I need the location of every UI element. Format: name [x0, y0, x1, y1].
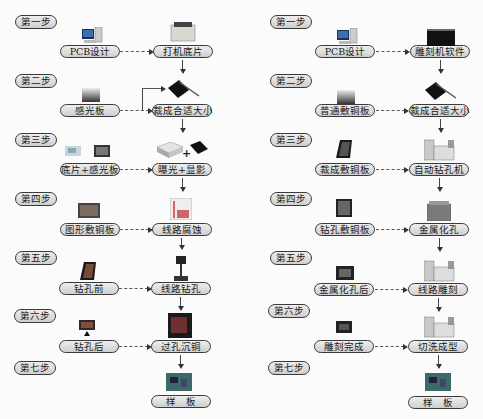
left-step-4: 第四步 [15, 192, 57, 206]
sample-board-icon [166, 373, 192, 391]
right-input-drilled-copper-board: 钻孔敷铜板 [315, 223, 375, 236]
film-board-icon [65, 146, 81, 156]
right-step-2: 第二步 [270, 74, 312, 88]
left-arrow-4 [120, 229, 149, 230]
left-input-photosensitive-board: 感光板 [60, 104, 120, 117]
patterned-board-icon [78, 203, 100, 218]
left-process-print-film: 打机底片 [153, 45, 213, 58]
right-process-cut-shape: 切洗成型 [408, 340, 468, 353]
right-vflow-1 [440, 60, 441, 70]
right-arrow-2 [376, 110, 405, 111]
right-process-cut-to-size: 裁成合适大小 [409, 104, 469, 117]
left-vflow-2 [182, 119, 183, 129]
cutter-icon [422, 80, 458, 104]
left-arrow-5 [119, 288, 148, 289]
left-step-7: 第七步 [14, 361, 56, 375]
right-vflow-6 [438, 355, 439, 365]
sample-board-icon [425, 373, 451, 391]
left-process-plating: 过孔沉铜 [151, 340, 211, 353]
plating-machine-icon [167, 313, 193, 338]
photosensitive-board-icon [94, 145, 110, 157]
left-process-cut-to-size: 裁成合适大小 [152, 104, 212, 117]
right-process-auto-drill: 自动钻孔机 [409, 163, 469, 176]
right-arrow-6 [375, 346, 404, 347]
engraving-machine-icon [424, 315, 456, 339]
developer-tray-icon [190, 141, 208, 155]
left-step-6: 第六步 [14, 309, 56, 323]
left-branch-arrow [142, 88, 162, 89]
right-vflow-2 [440, 119, 441, 129]
printer-icon [170, 22, 196, 42]
left-input-after-drill: 钻孔后 [59, 340, 119, 353]
right-process-hole-plating: 金属化孔 [409, 223, 469, 236]
left-result-sample: 样 板 [151, 395, 211, 408]
left-input-pcb-design: PCB设计 [60, 45, 120, 58]
left-step-5: 第五步 [15, 251, 57, 265]
right-result-sample: 样 板 [408, 396, 468, 409]
right-input-plain-copper-board: 普通敷铜板 [315, 104, 375, 117]
left-vflow-6 [180, 355, 181, 365]
right-step-1: 第一步 [270, 15, 312, 29]
left-branch-line [142, 88, 143, 110]
left-process-drilling: 线路钻孔 [151, 282, 211, 295]
computer-icon [82, 27, 104, 45]
right-input-engraving-done: 雕刻完成 [314, 340, 374, 353]
right-vflow-4 [439, 238, 440, 248]
left-input-film-plus-board: 底片+感光板 [60, 163, 120, 176]
copper-board-icon [337, 90, 355, 104]
left-step-3: 第三步 [15, 133, 57, 147]
right-vflow-5 [438, 298, 439, 308]
right-step-6: 第六步 [268, 304, 310, 318]
cut-board-icon [336, 140, 352, 158]
engraving-machine-icon [424, 259, 456, 283]
left-step-2: 第二步 [15, 74, 57, 88]
left-input-before-drill: 钻孔前 [59, 282, 119, 295]
left-input-patterned-board: 图形敷铜板 [60, 223, 120, 236]
computer-icon [337, 28, 359, 46]
right-input-pcb-design: PCB设计 [315, 45, 375, 58]
left-process-etching: 线路腐蚀 [152, 223, 212, 236]
left-vflow-3 [182, 178, 183, 188]
right-arrow-3 [376, 169, 405, 170]
left-arrow-3 [120, 169, 149, 170]
left-arrow-6 [119, 346, 148, 347]
right-input-after-plating: 金属化孔后 [314, 283, 374, 296]
right-step-3: 第三步 [270, 133, 312, 147]
right-arrow-4 [376, 229, 405, 230]
cnc-drill-icon [424, 138, 456, 162]
left-arrow-1 [120, 51, 150, 52]
etching-tank-icon [170, 198, 192, 220]
right-arrow-5 [375, 289, 404, 290]
board-after-drill-icon [79, 320, 95, 336]
board-before-drill-icon [80, 262, 96, 280]
photosensitive-board-icon [82, 88, 100, 102]
exposure-box-icon [157, 142, 183, 158]
left-arrow-2 [120, 110, 149, 111]
left-step-1: 第一步 [15, 15, 57, 29]
left-vflow-4 [181, 238, 182, 246]
plating-tank-icon [427, 201, 451, 221]
plated-board-icon [336, 266, 354, 280]
right-arrow-1 [376, 51, 406, 52]
right-step-7: 第七步 [268, 361, 310, 375]
right-process-circuit-engraving: 线路雕刻 [408, 283, 468, 296]
right-input-cut-copper-board: 裁成敷铜板 [315, 163, 375, 176]
monitor-icon [427, 29, 455, 47]
cutter-icon [165, 78, 201, 102]
engraved-board-icon [336, 321, 352, 333]
right-step-4: 第四步 [270, 192, 312, 206]
drilled-board-icon [336, 199, 352, 217]
right-vflow-3 [439, 178, 440, 188]
drill-press-icon [173, 256, 189, 282]
right-step-5: 第五步 [270, 251, 312, 265]
left-process-expose-develop: 曝光+显影 [152, 163, 212, 176]
left-vflow-5 [180, 297, 181, 307]
left-vflow-1 [182, 60, 183, 70]
